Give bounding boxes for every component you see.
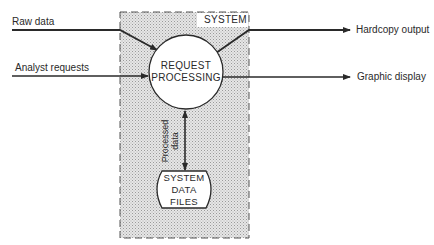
raw-data-label: Raw data <box>12 16 54 27</box>
request-processing-label: REQUEST PROCESSING <box>149 60 223 84</box>
system-data-files-label: SYSTEM DATA FILES <box>155 172 213 208</box>
data-store-line-1: SYSTEM <box>155 172 213 184</box>
hardcopy-output-label: Hardcopy output <box>356 24 429 35</box>
processed-line-1: Processed <box>160 111 170 171</box>
process-line-2: PROCESSING <box>149 72 223 84</box>
graphic-display-label: Graphic display <box>357 71 426 82</box>
processed-line-2: data <box>170 111 180 171</box>
process-line-1: REQUEST <box>149 60 223 72</box>
system-label: SYSTEM <box>204 14 247 25</box>
data-store-line-3: FILES <box>155 196 213 208</box>
data-store-line-2: DATA <box>155 184 213 196</box>
processed-data-label: Processed data <box>160 111 182 171</box>
diagram-canvas <box>0 0 434 245</box>
analyst-requests-label: Analyst requests <box>15 62 89 73</box>
